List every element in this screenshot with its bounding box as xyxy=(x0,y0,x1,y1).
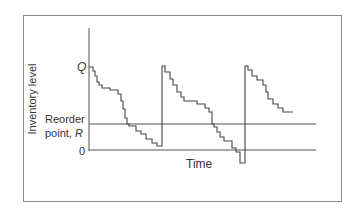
inventory-chart xyxy=(0,0,357,211)
zero-tick-label: 0 xyxy=(79,145,85,157)
x-axis-label: Time xyxy=(186,158,212,170)
reorder-label-point: point, xyxy=(45,127,75,139)
reorder-point-label: Reorder point, R xyxy=(45,112,85,140)
reorder-label-r: R xyxy=(75,127,83,139)
reorder-label-line1: Reorder xyxy=(45,112,85,126)
inventory-level-series xyxy=(89,66,293,163)
reorder-label-line2: point, R xyxy=(45,126,85,140)
y-axis-label: Inventory level xyxy=(26,53,38,145)
q-tick-label: Q xyxy=(77,61,86,73)
